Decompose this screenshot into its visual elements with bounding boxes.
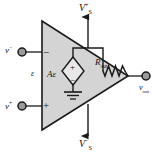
output-lead [128,72,150,80]
inverting-input-terminal [18,48,26,56]
source-positive-sign: + [70,63,75,72]
source-negative-sign: − [70,76,75,85]
op-amp-circuit-figure: V+S V−S v− v+ ε Aε Rout vout − + + − [0,0,160,157]
inverting-terminal-sign: − [43,47,49,58]
noninverting-input-label: v+ [5,101,12,111]
differential-input-label: ε [31,70,34,78]
noninverting-terminal-sign: + [43,100,49,111]
inverting-input-lead [18,48,42,56]
noninverting-input-lead [18,102,42,110]
output-resistance-label: Rout [95,58,108,69]
inverting-input-label: v− [5,45,12,55]
output-terminal [142,72,150,80]
noninverting-input-terminal [18,102,26,110]
output-voltage-label: vout [139,84,149,95]
supply-negative-label: V−S [79,138,92,152]
supply-positive-label: V+S [79,2,92,16]
circuit-schematic-canvas [0,0,160,157]
dependent-source-label: Aε [47,70,56,79]
